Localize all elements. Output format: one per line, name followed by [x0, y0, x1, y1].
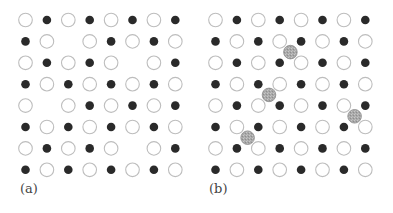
- open-ion: [19, 99, 33, 113]
- open-ion: [19, 13, 33, 27]
- open-ion: [294, 56, 308, 70]
- filled-ion: [254, 80, 263, 89]
- filled-ion: [64, 166, 73, 175]
- filled-ion: [171, 59, 180, 68]
- open-ion: [169, 77, 183, 91]
- filled-ion: [128, 101, 137, 110]
- open-ion: [294, 142, 308, 156]
- filled-ion: [275, 16, 284, 25]
- filled-ion: [361, 144, 370, 153]
- filled-ion: [340, 37, 349, 46]
- open-ion: [126, 77, 140, 91]
- open-ion: [230, 163, 244, 177]
- open-ion: [209, 142, 223, 156]
- open-ion: [19, 56, 33, 70]
- filled-ion: [150, 166, 159, 175]
- interstitial-ion: [262, 88, 276, 102]
- open-ion: [104, 13, 118, 27]
- open-ion: [359, 163, 373, 177]
- open-ion: [230, 35, 244, 49]
- open-ion: [40, 163, 54, 177]
- filled-ion: [361, 59, 370, 68]
- filled-ion: [43, 144, 52, 153]
- open-ion: [147, 13, 161, 27]
- filled-ion: [318, 16, 327, 25]
- filled-ion: [211, 37, 220, 46]
- open-ion: [169, 35, 183, 49]
- open-ion: [251, 13, 265, 27]
- open-ion: [273, 35, 287, 49]
- open-ion: [337, 56, 351, 70]
- filled-ion: [297, 80, 306, 89]
- open-ion: [104, 56, 118, 70]
- filled-ion: [297, 166, 306, 175]
- open-ion: [40, 35, 54, 49]
- open-ion: [337, 99, 351, 113]
- open-ion: [62, 56, 76, 70]
- filled-ion: [85, 59, 94, 68]
- panel-a-lattice: [19, 13, 182, 176]
- filled-ion: [340, 123, 349, 132]
- open-ion: [62, 99, 76, 113]
- panel-b-lattice: [209, 13, 372, 176]
- open-ion: [273, 77, 287, 91]
- open-ion: [316, 35, 330, 49]
- filled-ion: [128, 16, 137, 25]
- open-ion: [126, 35, 140, 49]
- open-ion: [294, 99, 308, 113]
- filled-ion: [340, 166, 349, 175]
- filled-ion: [85, 144, 94, 153]
- filled-ion: [233, 59, 242, 68]
- open-ion: [104, 142, 118, 156]
- filled-ion: [297, 37, 306, 46]
- open-ion: [62, 13, 76, 27]
- filled-ion: [297, 123, 306, 132]
- filled-ion: [254, 37, 263, 46]
- filled-ion: [318, 59, 327, 68]
- open-ion: [126, 120, 140, 134]
- open-ion: [169, 120, 183, 134]
- panel-b-label: (b): [209, 181, 227, 196]
- filled-ion: [361, 16, 370, 25]
- open-ion: [359, 77, 373, 91]
- open-ion: [19, 142, 33, 156]
- filled-ion: [150, 37, 159, 46]
- filled-ion: [21, 123, 30, 132]
- filled-ion: [150, 80, 159, 89]
- interstitial-ion: [348, 110, 362, 124]
- open-ion: [337, 142, 351, 156]
- filled-ion: [85, 16, 94, 25]
- open-ion: [209, 99, 223, 113]
- open-ion: [62, 142, 76, 156]
- filled-ion: [211, 123, 220, 132]
- filled-ion: [275, 59, 284, 68]
- filled-ion: [211, 166, 220, 175]
- filled-ion: [318, 101, 327, 110]
- open-ion: [83, 35, 97, 49]
- open-ion: [147, 56, 161, 70]
- open-ion: [230, 77, 244, 91]
- filled-ion: [211, 80, 220, 89]
- filled-ion: [107, 123, 116, 132]
- filled-ion: [107, 80, 116, 89]
- open-ion: [337, 13, 351, 27]
- filled-ion: [43, 16, 52, 25]
- filled-ion: [64, 123, 73, 132]
- filled-ion: [107, 166, 116, 175]
- filled-ion: [21, 80, 30, 89]
- filled-ion: [361, 101, 370, 110]
- open-ion: [83, 77, 97, 91]
- filled-ion: [233, 144, 242, 153]
- open-ion: [209, 56, 223, 70]
- open-ion: [294, 13, 308, 27]
- open-ion: [230, 120, 244, 134]
- open-ion: [316, 77, 330, 91]
- open-ion: [126, 163, 140, 177]
- open-ion: [316, 120, 330, 134]
- filled-ion: [233, 16, 242, 25]
- open-ion: [251, 142, 265, 156]
- open-ion: [316, 163, 330, 177]
- filled-ion: [275, 101, 284, 110]
- filled-ion: [275, 144, 284, 153]
- open-ion: [147, 99, 161, 113]
